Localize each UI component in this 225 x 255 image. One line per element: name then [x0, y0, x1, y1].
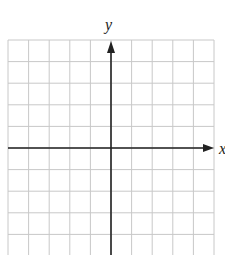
- coordinate-plane: y x: [0, 0, 225, 255]
- y-axis-label: y: [103, 16, 113, 34]
- x-axis-label: x: [218, 140, 225, 157]
- x-axis-arrow-icon: [203, 144, 214, 152]
- y-axis-arrow-icon: [107, 41, 115, 53]
